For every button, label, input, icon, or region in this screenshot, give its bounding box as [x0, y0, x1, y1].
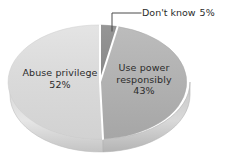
slice-label-dont-know: Don't know5% — [142, 7, 215, 19]
pie-chart-graphic — [0, 0, 227, 165]
pie-top-faces — [8, 25, 187, 139]
slice-label-dont-know-name: Don't know — [142, 7, 196, 18]
slice-label-dont-know-value: 5% — [200, 7, 215, 18]
pie-chart: Abuse privilege 52% Use power responsibl… — [0, 0, 227, 165]
